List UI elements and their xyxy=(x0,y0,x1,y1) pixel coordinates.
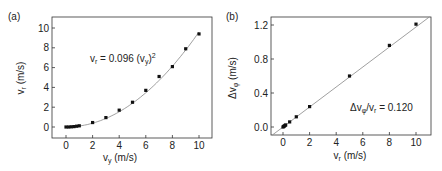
panel-a: (a) 0246810 0246810 vr = 0.096 (vy)2 vy … xyxy=(8,11,212,165)
y-tick-label: 0.4 xyxy=(254,88,268,99)
x-tick-label: 6 xyxy=(143,140,149,151)
data-point xyxy=(288,120,291,123)
y-tick-label: 10 xyxy=(38,23,50,34)
x-tick-label: 4 xyxy=(333,137,339,148)
y-tick-label: 4 xyxy=(43,82,49,93)
y-tick-label: 2 xyxy=(43,102,49,113)
data-point xyxy=(184,47,187,50)
y-tick-label: 0.0 xyxy=(254,122,268,133)
panel-a-equation: vr = 0.096 (vy)2 xyxy=(90,52,156,66)
y-tick-label: 0.8 xyxy=(254,54,268,65)
data-point xyxy=(308,105,311,108)
data-point xyxy=(388,44,391,47)
x-tick-label: 0 xyxy=(280,137,286,148)
panel-b-x-ticks: 0246810 xyxy=(280,132,422,148)
panel-b-equation: Δvφ/vr = 0.120 xyxy=(350,102,413,115)
data-point xyxy=(284,123,287,126)
y-tick-label: 1.2 xyxy=(254,20,268,31)
panel-a-y-ticks: 0246810 xyxy=(38,23,55,133)
figure: (a) 0246810 0246810 vr = 0.096 (vy)2 vy … xyxy=(0,0,442,171)
x-tick-label: 10 xyxy=(410,137,422,148)
data-point xyxy=(295,115,298,118)
x-tick-label: 0 xyxy=(63,140,69,151)
data-point xyxy=(91,121,94,124)
y-tick-label: 8 xyxy=(43,42,49,53)
panel-a-data-points xyxy=(64,32,200,128)
data-point xyxy=(171,65,174,68)
panel-a-x-label: vy (m/s) xyxy=(103,152,137,165)
data-point xyxy=(118,109,121,112)
data-point xyxy=(131,101,134,104)
panel-a-frame xyxy=(52,17,212,138)
panel-b-y-label: Δvφ (m/s) xyxy=(227,57,240,99)
panel-a-fit-curve xyxy=(66,32,199,127)
x-tick-label: 8 xyxy=(170,140,176,151)
data-point xyxy=(158,75,161,78)
x-tick-label: 2 xyxy=(307,137,313,148)
x-tick-label: 8 xyxy=(387,137,393,148)
panel-a-x-ticks: 0246810 xyxy=(63,135,205,151)
y-tick-label: 6 xyxy=(43,62,49,73)
x-tick-label: 2 xyxy=(90,140,96,151)
panel-b-label: (b) xyxy=(226,11,238,22)
panel-b: (b) 0246810 0.00.40.81.2 Δvφ/vr = 0.120 … xyxy=(226,11,431,162)
panel-b-x-label: vr (m/s) xyxy=(334,150,367,162)
panel-a-label: (a) xyxy=(8,11,20,22)
data-point xyxy=(197,32,200,35)
x-tick-label: 6 xyxy=(360,137,366,148)
data-point xyxy=(144,89,147,92)
x-tick-label: 4 xyxy=(116,140,122,151)
panel-a-y-label: vr (m/s) xyxy=(15,62,27,95)
data-point xyxy=(104,116,107,119)
y-tick-label: 0 xyxy=(43,122,49,133)
data-point xyxy=(348,74,351,77)
x-tick-label: 10 xyxy=(193,140,205,151)
data-point xyxy=(78,124,81,127)
data-point xyxy=(414,23,417,26)
